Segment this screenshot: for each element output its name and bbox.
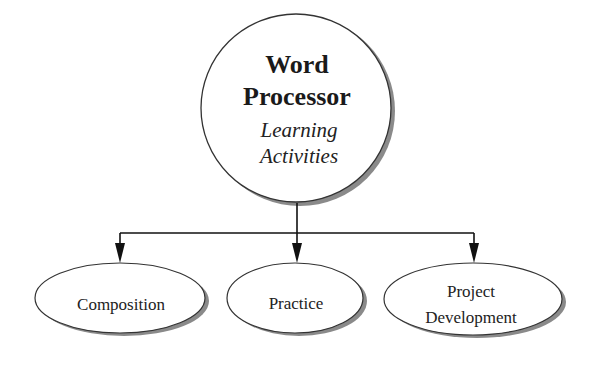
diagram-canvas: Word Processor Learning Activities Compo… xyxy=(0,0,595,365)
child-node-project-development: Project Development xyxy=(384,263,566,338)
connectors xyxy=(120,203,474,244)
child-node-practice: Practice xyxy=(227,263,367,336)
arrow-down-icon xyxy=(115,243,125,263)
root-node: Word Processor Learning Activities xyxy=(201,14,395,206)
arrowheads xyxy=(115,243,479,263)
root-title-line-2: Processor xyxy=(243,82,351,111)
child-label-line-2: Development xyxy=(425,308,517,327)
child-label: Composition xyxy=(77,295,165,314)
child-label: Practice xyxy=(269,294,324,313)
child-node-composition: Composition xyxy=(35,263,209,336)
root-title-line-1: Word xyxy=(265,50,329,79)
root-subtitle-line-1: Learning xyxy=(259,118,337,142)
arrow-down-icon xyxy=(292,243,302,263)
child-label-line-1: Project xyxy=(447,282,495,301)
arrow-down-icon xyxy=(469,243,479,263)
root-subtitle-line-2: Activities xyxy=(258,144,338,168)
